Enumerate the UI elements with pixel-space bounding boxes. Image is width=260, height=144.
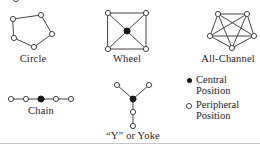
legend-peripheral-line2: Position	[196, 110, 239, 121]
diagram-chain	[8, 96, 73, 102]
label-y-or-yoke: “Y” or Yoke	[100, 130, 166, 141]
all-channel-node-peripheral	[251, 33, 256, 38]
bottom-divider	[0, 143, 260, 144]
circle-node-peripheral	[38, 12, 43, 17]
wheel-node-peripheral	[143, 46, 148, 51]
wheel-node-peripheral	[105, 46, 110, 51]
legend-item-central-text: Central Position	[196, 74, 230, 96]
diagram-y-or-yoke	[114, 82, 151, 128]
filled-dot-icon	[182, 74, 196, 83]
all-channel-node-peripheral	[207, 33, 212, 38]
chain-node-peripheral	[53, 96, 58, 101]
circle-node-peripheral	[10, 16, 15, 21]
all-channel-edge	[232, 36, 254, 48]
circle-node-cropped	[13, 0, 18, 2]
all-channel-node-peripheral	[229, 45, 234, 50]
legend-peripheral-line1: Peripheral	[196, 99, 239, 110]
diagram-wheel	[105, 10, 148, 51]
legend-item-central: Central Position	[182, 74, 260, 96]
all-channel-edge	[210, 14, 247, 36]
chain-node-peripheral	[68, 96, 73, 101]
circle-edges	[13, 15, 52, 47]
legend: Central Position Peripheral Position	[182, 74, 260, 124]
legend-item-peripheral-text: Peripheral Position	[196, 99, 239, 121]
legend-item-peripheral: Peripheral Position	[182, 99, 260, 121]
all-channel-edge	[210, 36, 232, 48]
diagram-circle	[10, 0, 54, 50]
circle-node-peripheral	[11, 35, 16, 40]
circle-node-peripheral	[31, 44, 36, 49]
diagram-all-channel	[207, 11, 256, 50]
all-channel-edge	[210, 14, 218, 36]
yoke-node-peripheral	[114, 82, 119, 87]
network-structures-figure: Circle Wheel All-Channel Chain “Y” or Yo…	[0, 0, 260, 144]
yoke-node-peripheral	[130, 109, 135, 114]
label-circle: Circle	[0, 53, 66, 64]
wheel-node-peripheral	[105, 10, 110, 15]
wheel-node-central	[124, 28, 130, 34]
label-all-channel: All-Channel	[196, 53, 260, 64]
label-wheel: Wheel	[97, 53, 157, 64]
open-circle-icon	[182, 99, 196, 109]
all-channel-edge	[218, 14, 254, 36]
wheel-node-peripheral	[143, 10, 148, 15]
all-channel-edge	[218, 14, 232, 48]
legend-central-line2: Position	[196, 85, 230, 96]
legend-central-line1: Central	[196, 74, 230, 85]
all-channel-node-peripheral	[215, 11, 220, 16]
circle-node-peripheral	[49, 31, 54, 36]
label-chain: Chain	[11, 105, 71, 116]
yoke-node-peripheral	[130, 123, 135, 128]
all-channel-edge	[232, 14, 247, 48]
chain-node-peripheral	[23, 96, 28, 101]
yoke-node-central	[130, 96, 136, 102]
chain-node-peripheral	[8, 96, 13, 101]
chain-node-central	[38, 96, 44, 102]
yoke-node-peripheral	[146, 82, 151, 87]
all-channel-node-peripheral	[244, 11, 249, 16]
